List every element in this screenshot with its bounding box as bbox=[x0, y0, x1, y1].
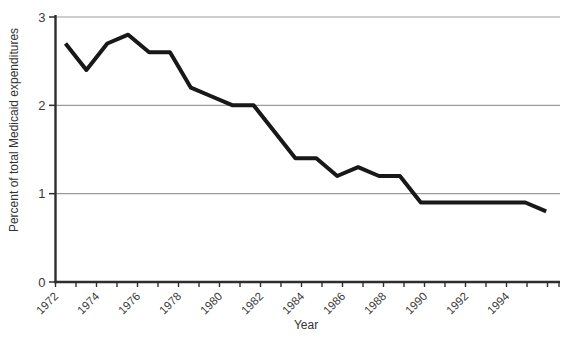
x-tick-label-1982: 1982 bbox=[239, 290, 266, 317]
y-axis-title: Percent of total Medicaid expenditures bbox=[7, 28, 21, 232]
x-tick-label-1992: 1992 bbox=[444, 290, 471, 317]
x-tick-label-1994: 1994 bbox=[485, 290, 512, 317]
x-tick-label-1974: 1974 bbox=[75, 290, 102, 317]
x-tick-label-1980: 1980 bbox=[198, 290, 225, 317]
x-tick-label-1978: 1978 bbox=[157, 290, 184, 317]
x-tick-label-1984: 1984 bbox=[280, 290, 307, 317]
chart-svg: 0123197219741976197819801982198419861988… bbox=[0, 0, 572, 342]
y-tick-label-1: 1 bbox=[38, 186, 45, 201]
y-tick-label-0: 0 bbox=[38, 275, 45, 290]
chart-series-layer bbox=[66, 35, 547, 212]
chart-ticks-layer: 0123197219741976197819801982198419861988… bbox=[34, 10, 559, 317]
x-tick-label-1972: 1972 bbox=[34, 290, 61, 317]
x-tick-label-1986: 1986 bbox=[321, 290, 348, 317]
chart-axes-layer bbox=[54, 15, 560, 283]
y-tick-label-3: 3 bbox=[38, 10, 45, 25]
y-tick-label-2: 2 bbox=[38, 98, 45, 113]
medicaid-percent-line bbox=[66, 35, 547, 212]
x-axis-title: Year bbox=[294, 318, 318, 332]
x-tick-label-1976: 1976 bbox=[116, 290, 143, 317]
medicaid-expenditures-figure: 0123197219741976197819801982198419861988… bbox=[0, 0, 572, 342]
chart-grid-layer bbox=[56, 17, 561, 194]
x-tick-label-1990: 1990 bbox=[403, 290, 430, 317]
x-tick-label-1988: 1988 bbox=[362, 290, 389, 317]
